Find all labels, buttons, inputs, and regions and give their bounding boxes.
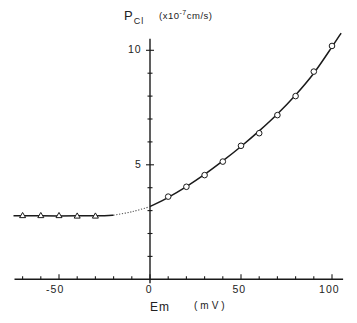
circle-marker bbox=[220, 159, 226, 165]
y-unit-exponent: -7 bbox=[179, 9, 186, 16]
triangle-marker bbox=[38, 212, 44, 217]
triangle-marker bbox=[20, 212, 26, 217]
y-axis-label-main: P bbox=[124, 8, 134, 23]
x-tick-label: 0 bbox=[146, 283, 153, 295]
y-tick-label: 10 bbox=[128, 43, 142, 55]
fit-curve-left bbox=[14, 215, 114, 216]
circle-marker bbox=[184, 184, 190, 190]
y-axis-label: PCl bbox=[124, 8, 144, 26]
circle-marker bbox=[202, 172, 208, 178]
circle-marker bbox=[256, 130, 262, 136]
circle-marker bbox=[275, 112, 281, 118]
x-axis-label: Em bbox=[150, 300, 170, 314]
chart-canvas bbox=[0, 0, 357, 323]
circle-marker bbox=[311, 69, 317, 75]
y-axis-unit: (x10-7cm/s) bbox=[159, 9, 212, 21]
triangle-marker bbox=[56, 212, 62, 217]
y-unit-suffix: cm/s) bbox=[187, 10, 213, 21]
y-axis-label-subscript: Cl bbox=[134, 16, 145, 26]
x-tick-label: 50 bbox=[232, 283, 246, 295]
circle-marker bbox=[293, 93, 299, 99]
fit-curve-right bbox=[150, 33, 341, 207]
x-tick-label: 100 bbox=[319, 283, 340, 295]
fit-curve-dotted bbox=[114, 207, 150, 215]
axes bbox=[15, 39, 344, 283]
circle-marker bbox=[238, 143, 244, 149]
circle-marker bbox=[329, 43, 335, 49]
y-unit-prefix: (x10 bbox=[159, 10, 179, 21]
x-axis-unit: (mV) bbox=[194, 300, 228, 311]
circle-marker bbox=[165, 194, 171, 200]
fit-curve bbox=[14, 33, 342, 216]
x-tick-label: -50 bbox=[46, 283, 64, 295]
y-tick-label: 5 bbox=[135, 158, 142, 170]
